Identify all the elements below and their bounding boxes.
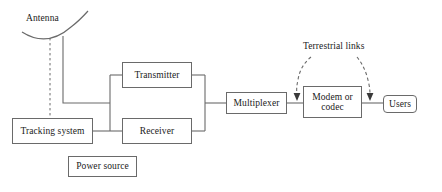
terrestrial-link-arrowhead-right [367, 93, 374, 101]
node-modem-or-codec: Modem or codec [303, 86, 362, 118]
node-multiplexer: Multiplexer [226, 92, 287, 114]
terrestrial-links-label: Terrestrial links [303, 41, 364, 51]
node-transmitter: Transmitter [122, 62, 192, 88]
block-diagram: Antenna Terrestrial links Tracking syste… [0, 0, 442, 192]
node-receiver: Receiver [122, 118, 192, 144]
antenna-label: Antenna [26, 13, 59, 23]
antenna-feed-line [63, 36, 110, 103]
node-users: Users [383, 95, 417, 113]
node-modem-line-1: Modem or [312, 92, 353, 102]
node-modem-line-2: codec [312, 102, 353, 112]
diagram-connections-layer [0, 0, 442, 192]
node-power-source: Power source [68, 156, 137, 177]
node-tracking-system: Tracking system [12, 118, 93, 144]
terrestrial-link-arrowhead-left [294, 93, 301, 101]
